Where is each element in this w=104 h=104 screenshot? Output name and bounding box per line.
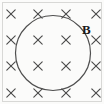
diagram-canvas bbox=[0, 0, 104, 104]
magnetic-field-label: B bbox=[82, 23, 91, 36]
magnetic-field-diagram: B bbox=[0, 0, 104, 104]
